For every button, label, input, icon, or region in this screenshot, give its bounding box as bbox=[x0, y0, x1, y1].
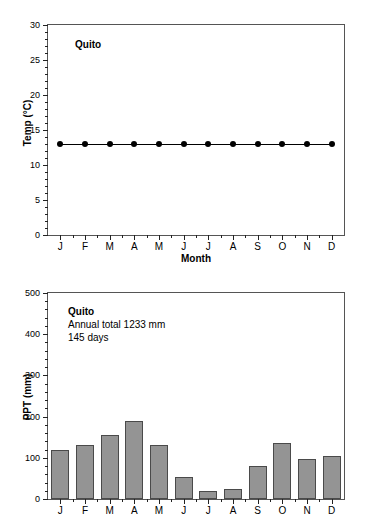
x-tick-major bbox=[60, 499, 61, 504]
y-tick-major bbox=[43, 499, 48, 500]
x-tick-minor bbox=[147, 235, 148, 238]
x-tick-major bbox=[184, 235, 185, 240]
precipitation-chart-panel: PPT (mm) Quito Annual total 1233 mm 145 … bbox=[0, 282, 368, 515]
x-tick-major bbox=[332, 235, 333, 240]
x-tick-label: A bbox=[131, 506, 138, 515]
temperature-data-point bbox=[131, 141, 137, 147]
x-tick-label: M bbox=[155, 506, 163, 515]
precipitation-bar bbox=[323, 456, 341, 499]
x-tick-major bbox=[282, 499, 283, 504]
y-tick-label: 100 bbox=[25, 453, 40, 462]
x-tick-minor bbox=[221, 235, 222, 238]
temperature-line-segment bbox=[159, 144, 184, 145]
x-tick-label: F bbox=[82, 506, 88, 515]
temperature-line-segment bbox=[233, 144, 258, 145]
x-tick-label: J bbox=[58, 506, 63, 515]
y-tick-major bbox=[43, 235, 48, 236]
x-tick-minor bbox=[319, 499, 320, 502]
climate-diagram-figure: Temp (°C) Quito 051015202530 JFMAMJJASON… bbox=[0, 0, 368, 515]
x-tick-major bbox=[258, 235, 259, 240]
y-tick-label: 500 bbox=[25, 289, 40, 298]
precipitation-bars bbox=[48, 293, 344, 499]
temperature-chart-panel: Temp (°C) Quito 051015202530 JFMAMJJASON… bbox=[0, 0, 368, 272]
temperature-data-point bbox=[205, 141, 211, 147]
x-tick-major bbox=[208, 499, 209, 504]
y-tick-label: 0 bbox=[35, 231, 40, 240]
precipitation-bar bbox=[125, 421, 143, 499]
y-tick-label: 30 bbox=[30, 21, 40, 30]
y-tick-label: 300 bbox=[25, 371, 40, 380]
temperature-series bbox=[48, 25, 344, 235]
x-tick-minor bbox=[295, 235, 296, 238]
x-tick-minor bbox=[171, 499, 172, 502]
x-tick-minor bbox=[73, 235, 74, 238]
temperature-line-segment bbox=[307, 144, 332, 145]
x-tick-major bbox=[134, 499, 135, 504]
x-tick-minor bbox=[295, 499, 296, 502]
x-tick-minor bbox=[97, 235, 98, 238]
x-tick-major bbox=[110, 499, 111, 504]
precipitation-bar bbox=[249, 466, 267, 499]
x-tick-minor bbox=[270, 499, 271, 502]
x-tick-label: J bbox=[181, 506, 186, 515]
y-tick-label: 10 bbox=[30, 161, 40, 170]
x-tick-label: M bbox=[155, 242, 163, 252]
x-tick-major bbox=[282, 235, 283, 240]
x-tick-minor bbox=[73, 499, 74, 502]
temperature-plot-area: Quito 051015202530 JFMAMJJASOND bbox=[47, 24, 345, 236]
x-tick-major bbox=[85, 235, 86, 240]
precipitation-bar bbox=[76, 445, 94, 499]
precipitation-bar bbox=[273, 443, 291, 499]
temperature-data-point bbox=[181, 141, 187, 147]
temperature-data-point bbox=[230, 141, 236, 147]
x-tick-major bbox=[307, 499, 308, 504]
x-tick-label: A bbox=[230, 242, 237, 252]
x-tick-major bbox=[233, 499, 234, 504]
x-tick-major bbox=[184, 499, 185, 504]
temperature-data-point bbox=[57, 141, 63, 147]
x-tick-minor bbox=[122, 235, 123, 238]
x-tick-label: M bbox=[105, 242, 113, 252]
temperature-data-point bbox=[156, 141, 162, 147]
x-tick-label: N bbox=[303, 506, 310, 515]
x-tick-major bbox=[233, 235, 234, 240]
x-tick-minor bbox=[245, 235, 246, 238]
x-tick-minor bbox=[221, 499, 222, 502]
precipitation-bar bbox=[199, 491, 217, 499]
precipitation-bar bbox=[150, 445, 168, 499]
temperature-x-axis-title: Month bbox=[47, 254, 345, 264]
precipitation-bar bbox=[51, 450, 69, 499]
x-tick-major bbox=[60, 235, 61, 240]
x-tick-minor bbox=[270, 235, 271, 238]
x-tick-label: J bbox=[181, 242, 186, 252]
x-tick-minor bbox=[319, 235, 320, 238]
temperature-data-point bbox=[255, 141, 261, 147]
x-tick-label: S bbox=[254, 506, 261, 515]
x-tick-label: D bbox=[328, 506, 335, 515]
x-tick-major bbox=[110, 235, 111, 240]
x-tick-minor bbox=[97, 499, 98, 502]
x-tick-major bbox=[159, 499, 160, 504]
x-tick-label: J bbox=[206, 242, 211, 252]
temperature-y-axis-title: Temp (°C) bbox=[23, 93, 33, 153]
temperature-line-segment bbox=[85, 144, 110, 145]
temperature-data-point bbox=[82, 141, 88, 147]
x-tick-label: J bbox=[206, 506, 211, 515]
x-tick-major bbox=[134, 235, 135, 240]
precipitation-bar bbox=[101, 435, 119, 499]
x-tick-minor bbox=[196, 235, 197, 238]
y-tick-label: 200 bbox=[25, 412, 40, 421]
y-tick-label: 0 bbox=[35, 495, 40, 504]
precipitation-bar bbox=[298, 459, 316, 499]
x-tick-label: S bbox=[254, 242, 261, 252]
x-tick-label: O bbox=[278, 242, 286, 252]
temperature-data-point bbox=[107, 141, 113, 147]
x-tick-label: F bbox=[82, 242, 88, 252]
x-tick-label: A bbox=[230, 506, 237, 515]
x-tick-label: M bbox=[105, 506, 113, 515]
x-tick-label: A bbox=[131, 242, 138, 252]
x-tick-major bbox=[307, 235, 308, 240]
y-tick-label: 20 bbox=[30, 91, 40, 100]
x-tick-label: D bbox=[328, 242, 335, 252]
x-tick-label: N bbox=[303, 242, 310, 252]
